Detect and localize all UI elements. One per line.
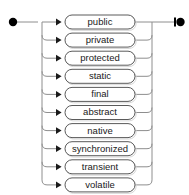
token-label: volatile — [85, 179, 115, 190]
token-label: final — [91, 88, 108, 99]
alternative-row[interactable]: final — [56, 87, 136, 102]
token-label: static — [89, 70, 111, 81]
end-terminal-dot — [176, 18, 184, 26]
railroad-diagram-canvas: publicprivateprotectedstaticfinalabstrac… — [0, 0, 189, 195]
left-rail-trunk — [42, 22, 58, 185]
arrow-right-icon — [56, 145, 62, 152]
alternative-row[interactable]: private — [56, 33, 136, 48]
arrow-right-icon — [56, 182, 62, 189]
token-label: protected — [80, 52, 120, 63]
right-merge-stub — [135, 108, 152, 113]
alternative-row[interactable]: volatile — [56, 178, 136, 193]
arrow-right-icon — [56, 73, 62, 80]
arrow-right-icon — [56, 163, 62, 170]
left-branch-stub — [42, 53, 58, 58]
alternative-row[interactable]: protected — [56, 51, 136, 66]
left-branch-stub — [42, 144, 58, 149]
right-merge-stub — [135, 35, 152, 40]
right-merge-stub — [135, 53, 152, 58]
left-branch-rail-group — [42, 22, 58, 185]
right-merge-stub — [135, 89, 152, 94]
alternative-row[interactable]: native — [56, 124, 136, 139]
alternative-row[interactable]: public — [56, 15, 136, 30]
railroad-diagram-svg: publicprivateprotectedstaticfinalabstrac… — [0, 0, 189, 195]
right-rail-trunk — [135, 22, 152, 185]
arrow-right-icon — [56, 19, 62, 26]
right-merge-rail-group — [135, 22, 152, 185]
right-merge-stub — [135, 126, 152, 131]
arrow-right-icon — [56, 109, 62, 116]
right-merge-stub — [135, 71, 152, 76]
arrow-right-icon — [56, 127, 62, 134]
left-branch-stub — [42, 89, 58, 94]
token-label: public — [88, 16, 113, 27]
alternative-rows-group: publicprivateprotectedstaticfinalabstrac… — [56, 15, 136, 193]
right-merge-stub — [135, 144, 152, 149]
exit-rail-group — [152, 18, 185, 27]
token-label: native — [87, 125, 112, 136]
token-label: synchronized — [72, 143, 128, 154]
start-terminal-dot — [9, 18, 17, 26]
arrow-right-icon — [56, 37, 62, 44]
arrow-right-icon — [56, 55, 62, 62]
token-label: abstract — [83, 106, 117, 117]
left-branch-stub — [42, 162, 58, 167]
entry-rail-group — [9, 18, 38, 26]
alternative-row[interactable]: synchronized — [56, 142, 136, 157]
alternative-row[interactable]: static — [56, 69, 136, 84]
arrow-right-icon — [56, 91, 62, 98]
left-branch-stub — [42, 35, 58, 40]
alternative-row[interactable]: abstract — [56, 106, 136, 121]
left-branch-stub — [42, 126, 58, 131]
token-label: private — [86, 34, 115, 45]
right-merge-stub — [135, 162, 152, 167]
left-branch-stub — [42, 108, 58, 113]
left-branch-stub — [42, 71, 58, 76]
token-label: transient — [82, 161, 119, 172]
alternative-row[interactable]: transient — [56, 160, 136, 175]
